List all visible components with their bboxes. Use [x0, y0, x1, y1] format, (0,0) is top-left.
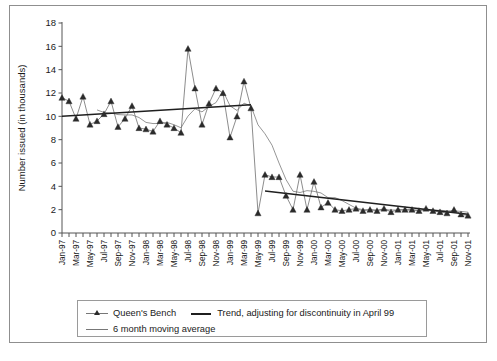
- y-tick-label-6: 6: [51, 157, 56, 168]
- figure-container: 024681012141618Number issued (in thousan…: [0, 0, 497, 361]
- data-point-marker: [227, 134, 233, 140]
- x-tick-label-May-99: May-99: [254, 240, 263, 268]
- x-tick-label-Mar-00: Mar-00: [324, 240, 333, 266]
- x-tick-label-May-97: May-97: [86, 240, 95, 268]
- chart-legend: Queen's Bench Trend, adjusting for disco…: [77, 300, 427, 337]
- data-point-marker: [66, 98, 72, 104]
- data-point-marker: [325, 200, 331, 206]
- series-queens-bench-line: [62, 49, 468, 216]
- data-point-marker: [199, 121, 205, 127]
- legend-item-queens-bench[interactable]: Queen's Bench: [86, 308, 176, 318]
- data-point-marker: [136, 125, 142, 131]
- data-point-marker: [241, 78, 247, 84]
- x-tick-label-Sep-98: Sep-98: [198, 240, 207, 267]
- data-point-marker: [157, 118, 163, 124]
- y-axis-title: Number issued (in thousands): [16, 65, 27, 192]
- legend-swatch-queens-bench-icon: [86, 308, 108, 318]
- x-tick-label-Nov-98: Nov-98: [212, 240, 221, 267]
- y-tick-label-10: 10: [45, 111, 56, 122]
- data-point-marker: [423, 205, 429, 211]
- legend-row-1: Queen's Bench Trend, adjusting for disco…: [86, 305, 418, 321]
- x-tick-label-Sep-01: Sep-01: [450, 240, 459, 267]
- x-tick-label-Mar-01: Mar-01: [408, 240, 417, 266]
- x-tick-label-Jan-98: Jan-98: [142, 240, 151, 265]
- x-tick-label-Mar-99: Mar-99: [240, 240, 249, 266]
- legend-label-trend: Trend, adjusting for discontinuity in Ap…: [217, 308, 394, 318]
- data-point-marker: [248, 105, 254, 111]
- x-tick-label-Nov-01: Nov-01: [464, 240, 473, 267]
- x-tick-label-Sep-00: Sep-00: [366, 240, 375, 267]
- data-point-marker: [304, 207, 310, 213]
- x-tick-label-Sep-97: Sep-97: [114, 240, 123, 267]
- y-tick-label-16: 16: [45, 41, 56, 52]
- data-point-marker: [206, 100, 212, 106]
- x-tick-label-Jan-00: Jan-00: [310, 240, 319, 265]
- data-point-marker: [87, 121, 93, 127]
- data-point-marker: [150, 128, 156, 134]
- data-point-marker: [59, 95, 65, 101]
- data-point-marker: [234, 113, 240, 119]
- x-tick-label-Jul-01: Jul-01: [436, 240, 445, 263]
- data-point-marker: [122, 116, 128, 122]
- data-point-marker: [255, 210, 261, 216]
- x-tick-label-Jan-97: Jan-97: [58, 240, 67, 265]
- legend-item-trend[interactable]: Trend, adjusting for discontinuity in Ap…: [190, 308, 394, 318]
- legend-label-moving-average: 6 month moving average: [113, 324, 215, 334]
- data-point-marker: [262, 172, 268, 178]
- data-point-marker: [73, 116, 79, 122]
- data-point-marker: [178, 130, 184, 136]
- y-tick-label-0: 0: [51, 227, 56, 238]
- data-point-marker: [220, 90, 226, 96]
- data-point-marker: [185, 46, 191, 52]
- data-point-marker: [192, 85, 198, 91]
- x-tick-label-Jul-00: Jul-00: [352, 240, 361, 263]
- x-tick-label-Mar-98: Mar-98: [156, 240, 165, 266]
- series-trend-segment-1: [62, 105, 251, 117]
- data-point-marker: [311, 179, 317, 185]
- data-point-marker: [290, 207, 296, 213]
- y-tick-label-2: 2: [51, 204, 56, 215]
- x-tick-label-Jul-99: Jul-99: [268, 240, 277, 263]
- y-tick-label-4: 4: [51, 181, 56, 192]
- data-point-marker: [318, 204, 324, 210]
- data-point-marker: [129, 103, 135, 109]
- x-tick-label-Nov-00: Nov-00: [380, 240, 389, 267]
- x-tick-label-Jan-01: Jan-01: [394, 240, 403, 265]
- series-moving-average-line: [97, 91, 468, 212]
- data-point-marker: [213, 85, 219, 91]
- y-tick-label-18: 18: [45, 17, 56, 28]
- x-tick-label-Nov-99: Nov-99: [296, 240, 305, 267]
- legend-item-moving-average[interactable]: 6 month moving average: [86, 324, 215, 334]
- data-point-marker: [381, 205, 387, 211]
- y-tick-label-14: 14: [45, 64, 56, 75]
- x-tick-label-May-01: May-01: [422, 240, 431, 268]
- data-point-marker: [297, 172, 303, 178]
- x-tick-label-Nov-97: Nov-97: [128, 240, 137, 267]
- x-tick-label-May-00: May-00: [338, 240, 347, 268]
- x-tick-label-May-98: May-98: [170, 240, 179, 268]
- x-tick-label-Sep-99: Sep-99: [282, 240, 291, 267]
- legend-swatch-moving-average-icon: [86, 324, 108, 334]
- data-point-marker: [80, 93, 86, 99]
- x-tick-label-Jan-99: Jan-99: [226, 240, 235, 265]
- legend-swatch-trend-icon: [190, 308, 212, 318]
- x-tick-label-Mar-97: Mar-97: [72, 240, 81, 266]
- x-tick-label-Jul-98: Jul-98: [184, 240, 193, 263]
- data-point-marker: [108, 98, 114, 104]
- legend-label-queens-bench: Queen's Bench: [113, 308, 176, 318]
- legend-row-2: 6 month moving average: [86, 321, 418, 337]
- y-tick-label-12: 12: [45, 87, 56, 98]
- x-tick-label-Jul-97: Jul-97: [100, 240, 109, 263]
- y-tick-label-8: 8: [51, 134, 56, 145]
- data-point-marker: [451, 207, 457, 213]
